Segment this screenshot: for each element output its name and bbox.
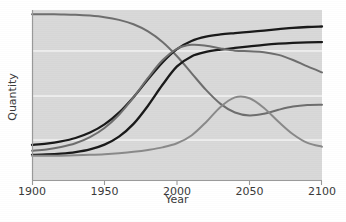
- y-axis-title: Quantity: [6, 73, 19, 121]
- chart-figure: 19001950200020502100 Year Quantity: [0, 0, 346, 222]
- x-tick-label-2050: 2050: [236, 185, 264, 198]
- line-chart: 19001950200020502100 Year Quantity: [0, 0, 346, 222]
- x-tick-label-1900: 1900: [18, 185, 46, 198]
- x-axis-title: Year: [164, 193, 189, 206]
- x-tick-label-2100: 2100: [308, 185, 336, 198]
- x-tick-label-1950: 1950: [91, 185, 119, 198]
